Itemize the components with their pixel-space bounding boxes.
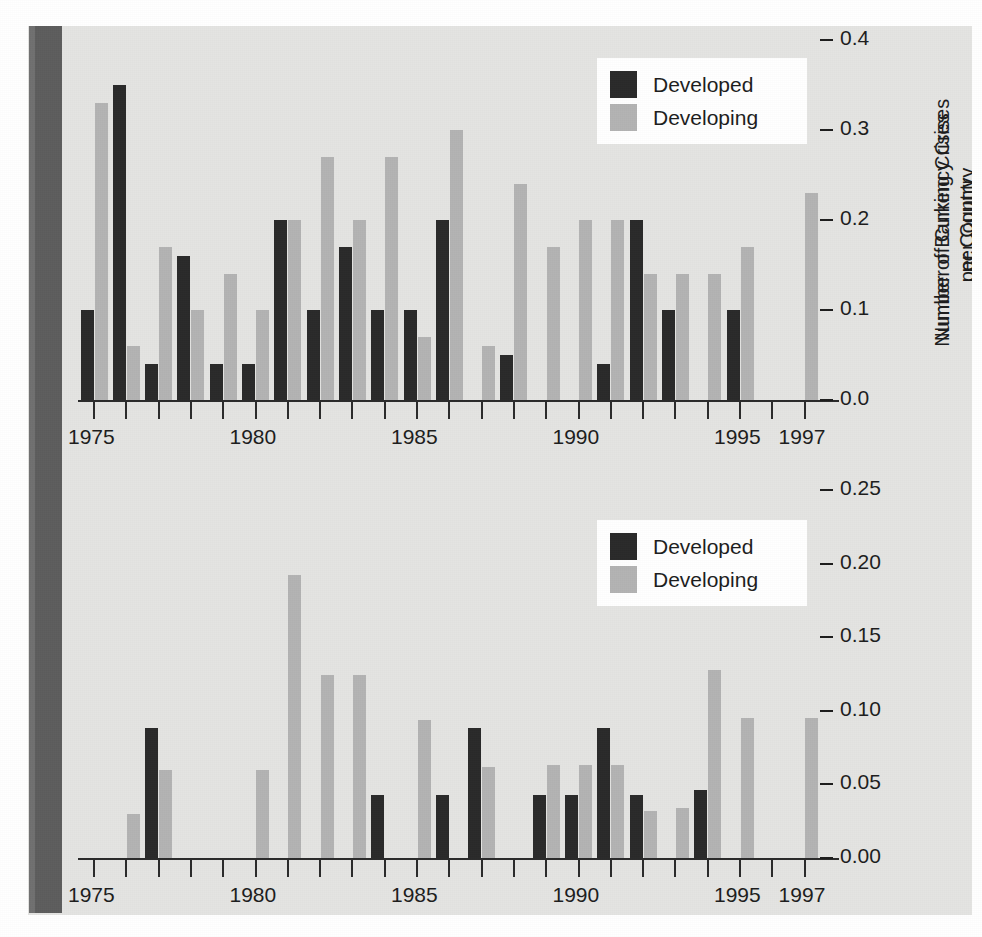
legend-item-developed: Developed xyxy=(610,68,791,101)
y-tick-dash-0.00 xyxy=(820,857,833,859)
x-tick-1977 xyxy=(158,860,160,877)
bar-developed-1987 xyxy=(468,728,481,858)
x-tick-1976 xyxy=(125,402,127,419)
chart-banking-crises: 1975198019851990199519970.250.200.150.10… xyxy=(0,470,982,937)
y-axis-label-0.0: 0.0 xyxy=(840,386,869,410)
x-axis-label-1997: 1997 xyxy=(779,883,826,907)
legend-item-developed: Developed xyxy=(610,530,791,563)
x-axis-line xyxy=(78,400,839,402)
bar-developed-1985 xyxy=(404,310,417,400)
x-tick-1975 xyxy=(93,860,95,877)
bar-developing-1983 xyxy=(353,675,366,858)
bar-developing-1981 xyxy=(288,575,301,858)
bar-developed-1992 xyxy=(630,795,643,858)
bar-developing-1976 xyxy=(127,814,140,858)
bar-developing-1978 xyxy=(191,310,204,400)
bar-developing-1982 xyxy=(321,675,334,858)
x-tick-1984 xyxy=(384,860,386,877)
y-axis-label-0.15: 0.15 xyxy=(840,623,881,647)
bar-developed-1986 xyxy=(436,795,449,858)
bar-developing-1985 xyxy=(418,720,431,858)
x-tick-1987 xyxy=(481,402,483,419)
x-tick-1983 xyxy=(351,860,353,877)
y-tick-dash-0.10 xyxy=(820,710,833,712)
x-tick-1977 xyxy=(158,402,160,419)
bar-developing-1988 xyxy=(514,184,527,400)
bar-developing-1997 xyxy=(805,193,818,400)
x-tick-1981 xyxy=(287,860,289,877)
x-tick-1991 xyxy=(610,860,612,877)
bar-developing-1984 xyxy=(385,157,398,400)
figure-page: 1975198019851990199519970.40.30.20.10.0N… xyxy=(0,0,982,937)
x-axis-label-1990: 1990 xyxy=(553,883,600,907)
y-axis-title: Number of Banking Crisesper Country xyxy=(930,45,980,415)
x-tick-1978 xyxy=(190,860,192,877)
y-axis-label-0.3: 0.3 xyxy=(840,116,869,140)
bar-developed-1977 xyxy=(145,728,158,858)
y-tick-dash-0.15 xyxy=(820,636,833,638)
bar-developing-1980 xyxy=(256,770,269,858)
x-tick-1990 xyxy=(578,402,580,419)
bar-developing-1993 xyxy=(676,274,689,400)
bar-developing-1980 xyxy=(256,310,269,400)
legend-item-developing: Developing xyxy=(610,563,791,596)
x-tick-1988 xyxy=(513,860,515,877)
x-tick-1994 xyxy=(707,860,709,877)
y-axis-label-0.2: 0.2 xyxy=(840,206,869,230)
legend-swatch-developed xyxy=(610,71,637,98)
bar-developing-1976 xyxy=(127,346,140,400)
bar-developed-1983 xyxy=(339,247,352,400)
x-axis-label-1975: 1975 xyxy=(68,425,115,449)
x-tick-1976 xyxy=(125,860,127,877)
legend-swatch-developing xyxy=(610,104,637,131)
bar-developing-1993 xyxy=(676,808,689,858)
x-axis-label-1980: 1980 xyxy=(230,425,277,449)
y-axis-label-0.20: 0.20 xyxy=(840,550,881,574)
bar-developing-1997 xyxy=(805,718,818,858)
x-tick-1992 xyxy=(642,402,644,419)
y-tick-dash-0.4 xyxy=(820,39,833,41)
x-tick-1993 xyxy=(674,860,676,877)
bar-developed-1989 xyxy=(533,795,546,858)
bar-developing-1995 xyxy=(741,247,754,400)
bar-developed-1995 xyxy=(727,310,740,400)
bar-developing-1990 xyxy=(579,220,592,400)
bar-developed-1984 xyxy=(371,795,384,858)
bar-developed-1986 xyxy=(436,220,449,400)
x-tick-1982 xyxy=(319,402,321,419)
legend: DevelopedDeveloping xyxy=(597,58,807,144)
x-tick-1978 xyxy=(190,402,192,419)
y-tick-dash-0.0 xyxy=(820,399,833,401)
bar-developing-1991 xyxy=(611,220,624,400)
bar-developed-1977 xyxy=(145,364,158,400)
x-axis-label-1995: 1995 xyxy=(714,425,761,449)
x-tick-1990 xyxy=(578,860,580,877)
legend-swatch-developing xyxy=(610,566,637,593)
x-tick-1994 xyxy=(707,402,709,419)
bar-developing-1986 xyxy=(450,130,463,400)
x-axis-line xyxy=(78,858,839,860)
y-tick-dash-0.20 xyxy=(820,563,833,565)
y-tick-dash-0.3 xyxy=(820,129,833,131)
y-axis-label-0.05: 0.05 xyxy=(840,770,881,794)
bar-developed-1990 xyxy=(565,795,578,858)
x-tick-1980 xyxy=(255,402,257,419)
y-axis-label-0.1: 0.1 xyxy=(840,296,869,320)
x-tick-1985 xyxy=(416,402,418,419)
legend-item-developing: Developing xyxy=(610,101,791,134)
y-tick-dash-0.1 xyxy=(820,309,833,311)
x-tick-1995 xyxy=(739,402,741,419)
x-tick-1981 xyxy=(287,402,289,419)
x-tick-1986 xyxy=(448,860,450,877)
x-tick-1995 xyxy=(739,860,741,877)
x-axis-label-1985: 1985 xyxy=(391,425,438,449)
bar-developing-1975 xyxy=(95,103,108,400)
bar-developing-1990 xyxy=(579,765,592,858)
x-tick-1989 xyxy=(545,402,547,419)
x-tick-1982 xyxy=(319,860,321,877)
bar-developing-1991 xyxy=(611,765,624,858)
legend: DevelopedDeveloping xyxy=(597,520,807,606)
bar-developing-1989 xyxy=(547,765,560,858)
x-tick-1989 xyxy=(545,860,547,877)
bar-developing-1979 xyxy=(224,274,237,400)
